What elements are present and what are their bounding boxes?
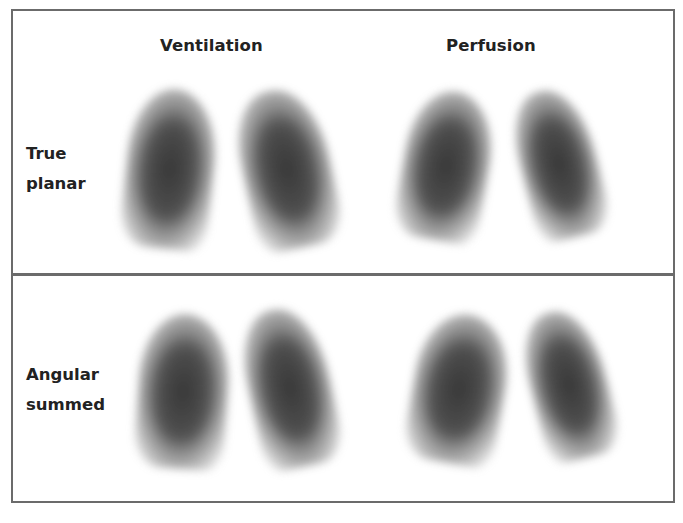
lung-core-shading (526, 115, 593, 216)
perfusion-left-lung-image (401, 307, 518, 471)
lung-core-shading (256, 336, 325, 443)
perfusion-right-lung-image (504, 82, 614, 246)
true-planar-panel: Ventilation Perfusion True planar (13, 11, 673, 273)
lung-core-shading (412, 117, 479, 218)
lung-core-shading (138, 119, 201, 223)
angular-summed-label: Angular summed (26, 360, 105, 420)
ventilation-left-lung-image (133, 311, 234, 472)
ventilation-right-lung-image (233, 301, 346, 475)
scan-comparison-figure: Ventilation Perfusion True planar Angula… (11, 9, 675, 503)
lung-core-shading (251, 117, 323, 225)
angular-summed-panel: Angular summed (13, 276, 673, 501)
perfusion-right-lung-image (514, 303, 624, 467)
perfusion-header: Perfusion (446, 36, 536, 55)
lung-core-shading (423, 340, 493, 441)
lung-core-shading (536, 336, 603, 437)
perfusion-left-lung-image (391, 85, 502, 248)
ventilation-left-lung-image (118, 85, 222, 253)
ventilation-header: Ventilation (160, 36, 263, 55)
lung-core-shading (153, 343, 214, 443)
ventilation-right-lung-image (227, 82, 346, 257)
true-planar-label: True planar (26, 139, 86, 199)
